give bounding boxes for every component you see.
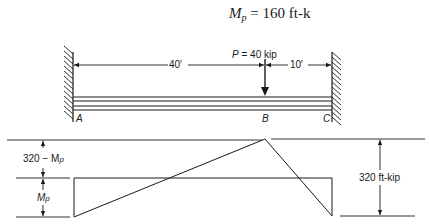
beam: [73, 97, 332, 110]
title-subscript: p: [242, 12, 247, 23]
load-symbol: P: [232, 49, 239, 60]
dimension-label-40ft: 40′: [169, 60, 182, 70]
dimension-label-10ft: 10′: [290, 60, 303, 70]
load-value: = 40 kip: [241, 49, 276, 60]
title-symbol: M: [229, 5, 242, 21]
label-lower-sub: p: [45, 194, 49, 203]
label-320-minus-mp: 320 − Mp: [22, 154, 65, 164]
right-fixed-support: [332, 52, 341, 125]
label-upper-text: 320 − M: [23, 153, 59, 164]
load-label: P = 40 kip: [232, 50, 277, 60]
plastic-moment-title: Mp = 160 ft-k: [229, 6, 310, 23]
title-equals: =: [250, 5, 258, 21]
label-320-ftkip: 320 ft-kip: [358, 173, 401, 183]
diagram-graphics: [0, 0, 429, 224]
plastic-analysis-diagram: Mp = 160 ft-k P = 40 kip 40′ 10′ A B C 3…: [0, 0, 429, 224]
plastic-moment-rectangle: [74, 178, 332, 217]
label-upper-sub: p: [59, 155, 63, 164]
point-label-a: A: [76, 114, 83, 124]
point-label-b: B: [262, 114, 269, 124]
left-fixed-support: [64, 46, 73, 122]
label-mp: Mp: [36, 193, 51, 203]
title-value: 160 ft-k: [262, 5, 310, 21]
point-label-c: C: [323, 114, 330, 124]
